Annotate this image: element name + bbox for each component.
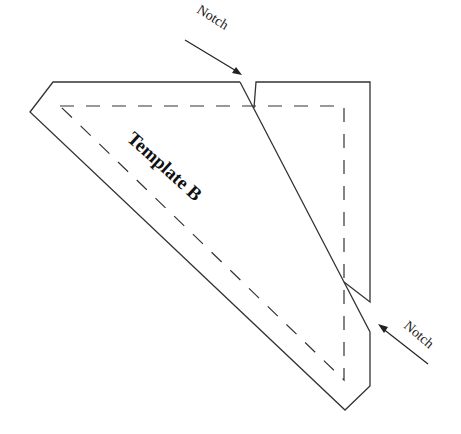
template-outline-right-piece	[254, 82, 370, 302]
template-title: Template B	[123, 127, 206, 205]
template-outline-main	[30, 82, 370, 410]
notch-top-label: Notch	[194, 2, 231, 33]
template-diagram: Notch Notch Template B	[0, 0, 461, 434]
seam-line	[60, 106, 344, 380]
notch-bottom-label: Notch	[401, 318, 437, 351]
notch-top-arrow	[185, 40, 242, 75]
